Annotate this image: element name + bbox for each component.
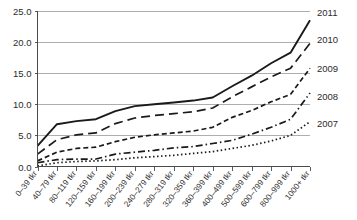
y-tick-label: 15.0 <box>13 68 32 79</box>
series-label-2008: 2008 <box>317 91 338 102</box>
y-tick-label: 25.0 <box>13 6 32 17</box>
y-tick-label: 5.0 <box>18 130 31 141</box>
series-label-2009: 2009 <box>317 63 338 74</box>
y-tick-label: 20.0 <box>13 37 32 48</box>
chart-canvas: 0.05.010.015.020.025.0 0–39 tkr40–79 tkr… <box>0 0 357 220</box>
series-label-2007: 2007 <box>317 118 338 129</box>
y-tick-label: 10.0 <box>13 99 32 110</box>
series-label-2010: 2010 <box>317 34 338 45</box>
series-label-2011: 2011 <box>317 7 337 18</box>
line-chart: 0.05.010.015.020.025.0 0–39 tkr40–79 tkr… <box>0 0 357 220</box>
